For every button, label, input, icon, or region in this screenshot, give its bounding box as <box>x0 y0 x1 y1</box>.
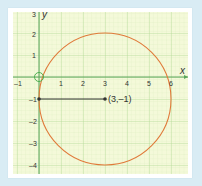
segment-endpoint-dot <box>37 97 41 101</box>
y-tick-label: –1 <box>29 96 37 103</box>
x-tick-label: 6 <box>169 80 173 87</box>
center-point-label: (3,–1) <box>108 94 132 104</box>
x-tick-label: 5 <box>147 80 151 87</box>
y-axis-label: y <box>41 9 48 20</box>
y-tick-label: –2 <box>29 118 37 125</box>
y-tick-label: 2 <box>32 31 36 38</box>
x-tick-label: –1 <box>14 80 22 87</box>
y-tick-label: –4 <box>29 162 37 169</box>
x-axis-label: x <box>179 65 186 76</box>
y-tick-label: 1 <box>32 52 36 59</box>
y-tick-label: 3 <box>32 11 36 18</box>
coordinate-graph: x y (3,–1) –1 1 2 3 4 5 6 3 2 1 –1 –2 –3… <box>0 0 202 186</box>
x-tick-label: 3 <box>103 80 107 87</box>
x-tick-label: 1 <box>59 80 63 87</box>
x-tick-label: 4 <box>125 80 129 87</box>
x-tick-label: 2 <box>81 80 85 87</box>
y-tick-label: –3 <box>29 140 37 147</box>
center-point-dot <box>103 97 107 101</box>
